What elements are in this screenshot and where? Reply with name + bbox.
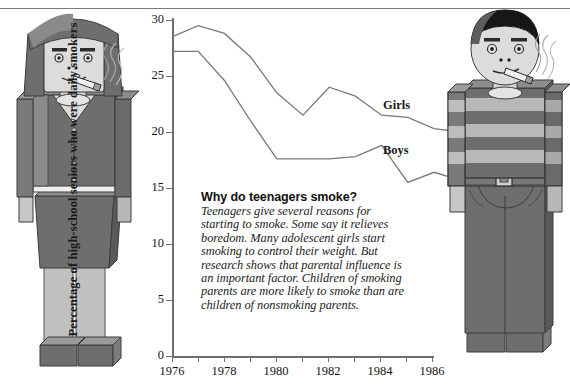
callout-box: Why do teenagers smoke? Teenagers give s… [201, 190, 411, 312]
line-chart: Percentage of high-school seniors who we… [0, 0, 470, 389]
boy-smoking-figure [443, 0, 570, 389]
series-line-girls [172, 26, 460, 132]
series-label-boys: Boys [383, 143, 409, 158]
series-line-boys [172, 51, 460, 182]
boy-figure-svg [443, 0, 570, 389]
smoking-chart-page: Percentage of high-school seniors who we… [0, 0, 570, 389]
callout-body: Teenagers give several reasons for start… [201, 205, 411, 312]
series-label-girls: Girls [383, 98, 410, 113]
callout-heading: Why do teenagers smoke? [201, 190, 411, 204]
